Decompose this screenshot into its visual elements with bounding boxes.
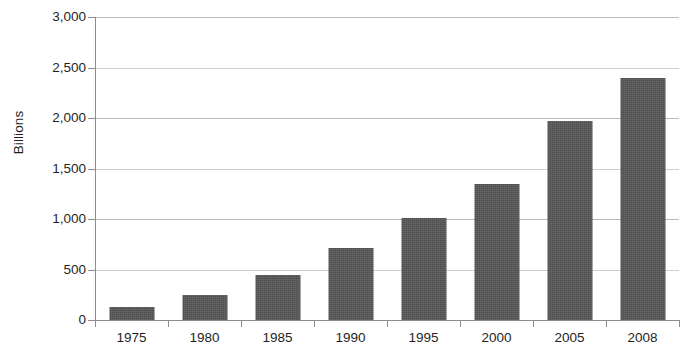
bar [109, 307, 154, 320]
x-axis-tick-label: 1990 [335, 330, 365, 345]
y-axis-tick [88, 17, 95, 18]
x-axis-tick [95, 320, 96, 327]
bar-slot [606, 17, 679, 320]
x-axis-tick-labels: 19751980198519901995200020052008 [95, 330, 679, 352]
bar [474, 184, 519, 320]
y-axis-tick-label: 1,000 [28, 212, 86, 226]
y-axis-tick-label: 500 [28, 263, 86, 277]
x-axis-tick-label: 1995 [408, 330, 438, 345]
y-axis-tick [88, 169, 95, 170]
bar [620, 78, 665, 320]
bar-slot [95, 17, 168, 320]
bar-slot [314, 17, 387, 320]
bar [182, 295, 227, 320]
x-axis-tick [314, 320, 315, 327]
bar-slot [460, 17, 533, 320]
y-axis-tick [88, 270, 95, 271]
bar [255, 275, 300, 320]
bar-slot [168, 17, 241, 320]
x-axis-tick-label: 2000 [481, 330, 511, 345]
bar [328, 248, 373, 320]
x-axis-tick-label: 1985 [262, 330, 292, 345]
y-axis-tick-label: 3,000 [28, 10, 86, 24]
bar-series [95, 17, 679, 320]
y-axis-tick-label: 1,500 [28, 162, 86, 176]
x-axis-tick [387, 320, 388, 327]
bar-slot [387, 17, 460, 320]
y-axis-tick [88, 68, 95, 69]
x-axis-tick-label: 2005 [554, 330, 584, 345]
y-axis-tick [88, 118, 95, 119]
bar [401, 218, 446, 320]
bar-slot [241, 17, 314, 320]
x-axis-ticks [95, 320, 679, 328]
x-axis-tick-label: 2008 [627, 330, 657, 345]
x-axis-tick-label: 1975 [116, 330, 146, 345]
bar-chart: Billions 05001,0001,5002,0002,5003,000 1… [0, 0, 689, 363]
y-axis-tick [88, 219, 95, 220]
x-axis-tick [241, 320, 242, 327]
y-axis-title: Billions [11, 83, 26, 183]
y-axis-tick [88, 320, 95, 321]
x-axis-tick [168, 320, 169, 327]
y-axis-tick-labels: 05001,0001,5002,0002,5003,000 [28, 0, 86, 363]
x-axis-tick [460, 320, 461, 327]
x-axis-tick-label: 1980 [189, 330, 219, 345]
y-axis-tick-label: 0 [28, 313, 86, 327]
bar-slot [533, 17, 606, 320]
x-axis-tick [533, 320, 534, 327]
x-axis-tick [679, 320, 680, 327]
bar [547, 121, 592, 320]
x-axis-tick [606, 320, 607, 327]
y-axis-tick-label: 2,000 [28, 111, 86, 125]
y-axis-tick-label: 2,500 [28, 61, 86, 75]
